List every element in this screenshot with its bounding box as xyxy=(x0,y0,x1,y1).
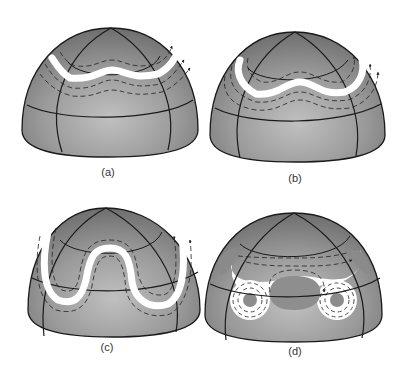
hemisphere-a xyxy=(22,28,198,157)
panel-label-a: (a) xyxy=(88,166,128,178)
dome-outline xyxy=(28,208,200,337)
central-trough xyxy=(270,276,321,310)
panel-label-c: (c) xyxy=(87,341,127,353)
hemisphere-d xyxy=(205,213,382,342)
dome-outline xyxy=(22,28,198,157)
jet-stream-diagram xyxy=(0,0,404,377)
hemisphere-c xyxy=(28,208,200,337)
panel-label-d: (d) xyxy=(275,345,315,357)
cut-off-core-right xyxy=(330,293,344,307)
panel-label-b: (b) xyxy=(275,172,315,184)
hemisphere-b xyxy=(210,32,385,162)
dome-outline xyxy=(210,32,385,162)
